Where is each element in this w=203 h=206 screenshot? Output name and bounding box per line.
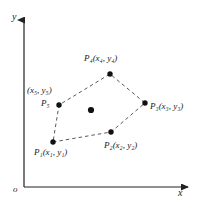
vertex-p3 [142,100,147,105]
label-p4: P₄(x₄, y₄) [84,54,117,63]
label-p2: P₂(x₂, y₂) [104,141,137,150]
vertex-p2 [108,129,113,134]
origin-label: o [13,185,18,194]
label-p5: P₅ [41,99,50,108]
centroid-point [88,107,94,113]
vertex-p1 [50,139,55,144]
label-p3: P₃(x₃, y₃) [150,102,183,111]
vertex-p5 [56,102,61,107]
vertex-p4 [107,71,112,76]
polygon-outline [53,74,145,142]
label-p5-coords: (x₅, y₅) [27,86,52,95]
label-p1: P₁(x₁, y₁) [34,148,67,157]
x-axis-label: x [178,188,182,198]
geometry-figure: y x o P₄(x₄, y₄) (x₅, y₅) P₅ P₃(x₃, y₃) … [0,0,203,206]
y-axis-label: y [12,12,16,22]
